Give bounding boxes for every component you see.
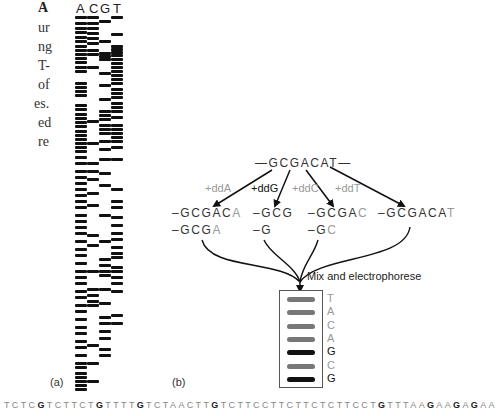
- template-strand: —GCGACAT—: [255, 156, 352, 170]
- terminator-base: C: [327, 223, 337, 237]
- product-body: –GCG: [172, 223, 212, 237]
- product-body: –GCGACA: [378, 206, 447, 220]
- gel-base-label: T: [327, 292, 334, 305]
- strand-dash-right: —: [338, 156, 352, 170]
- product-body: –GCG: [253, 206, 293, 220]
- electrophoresis-band: [287, 337, 315, 342]
- electrophoresis-band: [287, 364, 315, 369]
- terminator-base: C: [358, 206, 368, 220]
- gel-base-label: G: [327, 345, 336, 358]
- reaction-label-ddc: +ddC: [292, 182, 319, 194]
- electrophoresis-gel: [279, 290, 323, 388]
- electrophoresis-band: [287, 377, 315, 382]
- terminator-base: T: [447, 206, 456, 220]
- reaction-label-ddg: +ddG: [251, 182, 278, 194]
- reaction-label-dda: +ddA: [205, 182, 231, 194]
- product-body: –G: [308, 223, 327, 237]
- gel-base-label: C: [327, 359, 335, 372]
- product-dda-1: –GCGACA: [172, 206, 242, 220]
- electrophoresis-band: [287, 324, 315, 329]
- product-ddt-1: –GCGACAT: [378, 206, 456, 220]
- terminator-base: A: [212, 223, 222, 237]
- electrophoresis-band: [287, 310, 315, 315]
- gel-base-label: A: [327, 305, 334, 318]
- terminator-base: A: [232, 206, 242, 220]
- product-ddc-1: –GCGAC: [308, 206, 368, 220]
- product-body: –G: [253, 223, 272, 237]
- product-ddg-2: –G: [253, 223, 272, 237]
- gel-base-label: G: [327, 372, 336, 385]
- bottom-sequence-readout: TCTCGTCTTCTGTTTTGTCTAACTTGTCTTCCTTCTTCTC…: [4, 400, 497, 410]
- product-dda-2: –GCGA: [172, 223, 222, 237]
- gel-base-label: A: [327, 332, 334, 345]
- product-body: –GCGAC: [172, 206, 232, 220]
- strand-dash-left: —: [255, 156, 269, 170]
- product-ddg-1: –GCG: [253, 206, 293, 220]
- reaction-label-ddt: +ddT: [335, 182, 360, 194]
- electrophoresis-band: [287, 297, 315, 302]
- product-body: –GCGA: [308, 206, 358, 220]
- template-sequence: GCGACAT: [269, 156, 339, 170]
- gel-base-label: C: [327, 319, 335, 332]
- product-ddc-2: –GC: [308, 223, 338, 237]
- mix-electrophorese-label: Mix and electrophorese: [307, 270, 421, 282]
- electrophoresis-band: [287, 350, 315, 355]
